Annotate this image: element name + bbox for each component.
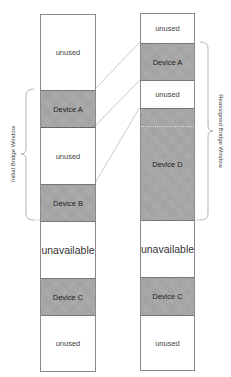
reassigned-window-brace (200, 42, 213, 220)
block-label: unused (56, 339, 81, 348)
block-unavailable: unavailable (41, 222, 95, 278)
initial-window-brace (21, 89, 34, 220)
block-label: unavailable (41, 244, 94, 256)
block-unused: unused (141, 81, 194, 108)
reassigned-bridge-window-label: Reassigned Bridge Window (218, 94, 224, 168)
block-label: Device A (53, 105, 83, 114)
connector-device-b-to-d (95, 107, 140, 183)
block-label: unused (56, 152, 81, 161)
block-device-a: Device A (41, 90, 95, 128)
block-label: unused (155, 339, 180, 348)
block-label: Device C (152, 292, 182, 301)
block-unused: unused (141, 316, 194, 370)
block-label: Device B (53, 199, 83, 208)
block-label: unused (155, 90, 180, 99)
block-unused: unused (41, 15, 95, 90)
block-label: unused (155, 24, 180, 33)
block-unused: unused (41, 316, 95, 371)
block-unused: unused (41, 128, 95, 184)
block-label: Device A (153, 58, 183, 67)
connectors-and-braces (0, 0, 231, 377)
dotted-divider (141, 126, 194, 127)
block-device-b: Device B (41, 184, 95, 222)
block-label: Device C (53, 293, 83, 302)
block-device-a: Device A (141, 43, 194, 81)
block-device-c: Device C (41, 278, 95, 316)
block-label: unused (56, 48, 81, 57)
block-label: unavailable (141, 243, 194, 255)
initial-memory-column: unused Device A unused Device B unavaila… (40, 14, 96, 372)
connector-device-a-top (95, 42, 140, 89)
block-device-d: Device D (141, 108, 194, 221)
block-device-c: Device C (141, 277, 194, 316)
initial-bridge-window-label: Initial Bridge Window (10, 126, 16, 182)
block-label: Device D (152, 160, 182, 169)
connector-device-a-bottom (95, 80, 140, 126)
reassigned-memory-column: unused Device A unused Device D unavaila… (140, 13, 195, 371)
block-unused: unused (141, 14, 194, 43)
block-unavailable: unavailable (141, 221, 194, 277)
